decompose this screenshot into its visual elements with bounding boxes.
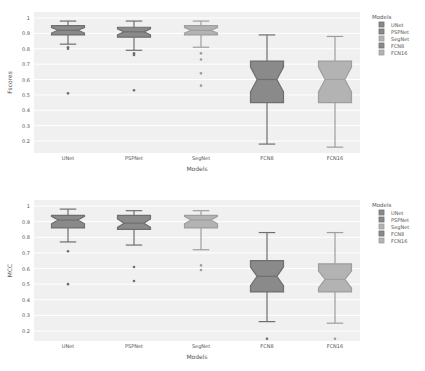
y-tick-label: 0.2 — [22, 328, 30, 334]
x-tick-label: PSPNet — [125, 343, 143, 349]
y-tick-label: 0.4 — [22, 107, 30, 113]
y-tick-label: 0.6 — [22, 77, 30, 83]
y-tick-label: 0.7 — [22, 250, 30, 256]
outlier-point[interactable] — [200, 264, 203, 267]
legend-swatch-icon — [379, 29, 384, 34]
x-tick-label: FCN16 — [327, 155, 343, 161]
legend-item-fcn8[interactable]: FCN8 — [379, 43, 404, 49]
outlier-point[interactable] — [200, 52, 203, 55]
legend-swatch-icon — [379, 231, 384, 236]
legend-label: UNet — [391, 22, 403, 28]
legend-item-pspnet[interactable]: PSPNet — [379, 29, 409, 35]
x-tick-label: PSPNet — [125, 155, 143, 161]
x-tick-label: SegNet — [192, 155, 210, 162]
outlier-point[interactable] — [67, 250, 70, 253]
legend-item-pspnet[interactable]: PSPNet — [379, 217, 409, 223]
legend-item-fcn16[interactable]: FCN16 — [379, 50, 407, 56]
x-tick-label: FCN8 — [260, 343, 273, 349]
legend-label: FCN8 — [391, 231, 404, 237]
legend-item-fcn16[interactable]: FCN16 — [379, 238, 407, 244]
outlier-point[interactable] — [67, 283, 70, 286]
y-tick-label: 0.7 — [22, 61, 30, 67]
legend-label: PSPNet — [391, 217, 409, 223]
y-tick-label: 0.6 — [22, 266, 30, 272]
legend-swatch-icon — [379, 22, 384, 27]
y-tick-label: 0.8 — [22, 234, 30, 240]
y-tick-label: 0.5 — [22, 92, 30, 98]
outlier-point[interactable] — [200, 84, 203, 87]
y-tick-label: 1 — [27, 15, 30, 21]
y-axis-title: Fscores — [6, 71, 13, 94]
outlier-point[interactable] — [133, 54, 136, 57]
mcc-chart: 10.90.80.70.60.50.40.30.2MCCUNetPSPNetSe… — [0, 188, 425, 371]
x-tick-label: SegNet — [192, 343, 210, 350]
legend: ModelsUNetPSPNetSegNetFCN8FCN16 — [372, 202, 409, 244]
outlier-point[interactable] — [266, 338, 269, 341]
legend: ModelsUNetPSPNetSegNetFCN8FCN16 — [372, 14, 409, 56]
y-tick-label: 0.2 — [22, 138, 30, 144]
outlier-point[interactable] — [133, 89, 136, 92]
legend-swatch-icon — [379, 50, 384, 55]
legend-item-segnet[interactable]: SegNet — [379, 224, 409, 231]
legend-swatch-icon — [379, 36, 384, 41]
outlier-point[interactable] — [200, 58, 203, 61]
mcc-plot: 10.90.80.70.60.50.40.30.2MCCUNetPSPNetSe… — [0, 188, 425, 371]
outlier-point[interactable] — [67, 47, 70, 50]
legend-swatch-icon — [379, 224, 384, 229]
y-tick-label: 0.3 — [22, 123, 30, 129]
x-axis-title: Models — [186, 165, 207, 172]
x-tick-label: FCN8 — [260, 155, 273, 161]
outlier-point[interactable] — [200, 72, 203, 75]
legend-label: FCN16 — [391, 50, 407, 56]
outlier-point[interactable] — [133, 266, 136, 269]
y-axis-title: MCC — [6, 264, 13, 278]
outlier-point[interactable] — [200, 269, 203, 272]
legend-swatch-icon — [379, 210, 384, 215]
fscores-chart: 10.90.80.70.60.50.40.30.2FscoresUNetPSPN… — [0, 0, 425, 185]
legend-title: Models — [372, 202, 392, 208]
legend-label: SegNet — [391, 36, 409, 43]
legend-item-unet[interactable]: UNet — [379, 22, 403, 28]
y-tick-label: 0.4 — [22, 297, 30, 303]
x-tick-label: UNet — [62, 155, 74, 161]
legend-title: Models — [372, 14, 392, 20]
outlier-point[interactable] — [67, 92, 70, 95]
legend-swatch-icon — [379, 217, 384, 222]
x-tick-label: UNet — [62, 343, 74, 349]
legend-item-fcn8[interactable]: FCN8 — [379, 231, 404, 237]
outlier-point[interactable] — [133, 280, 136, 283]
legend-label: UNet — [391, 210, 403, 216]
legend-swatch-icon — [379, 238, 384, 243]
x-axis-title: Models — [186, 353, 207, 360]
legend-label: PSPNet — [391, 29, 409, 35]
legend-label: FCN16 — [391, 238, 407, 244]
y-tick-label: 0.9 — [22, 219, 30, 225]
x-tick-label: FCN16 — [327, 343, 343, 349]
fscores-plot: 10.90.80.70.60.50.40.30.2FscoresUNetPSPN… — [0, 0, 425, 185]
y-tick-label: 0.9 — [22, 30, 30, 36]
y-tick-label: 1 — [27, 203, 30, 209]
legend-item-segnet[interactable]: SegNet — [379, 36, 409, 43]
legend-item-unet[interactable]: UNet — [379, 210, 403, 216]
y-tick-label: 0.8 — [22, 46, 30, 52]
y-tick-label: 0.5 — [22, 281, 30, 287]
outlier-point[interactable] — [334, 338, 337, 341]
legend-label: SegNet — [391, 224, 409, 231]
legend-swatch-icon — [379, 43, 384, 48]
y-tick-label: 0.3 — [22, 312, 30, 318]
legend-label: FCN8 — [391, 43, 404, 49]
